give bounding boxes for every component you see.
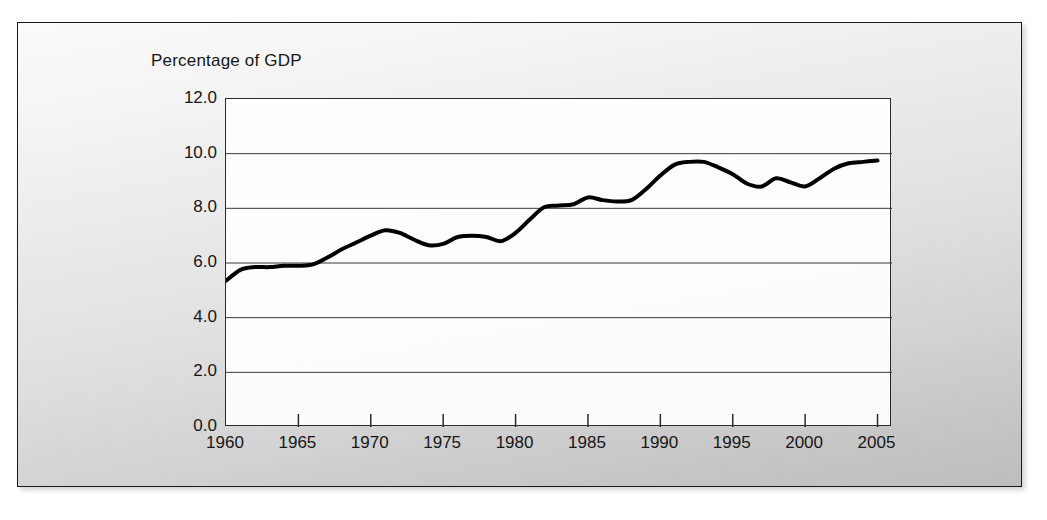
x-tick-label: 1990 — [623, 433, 695, 453]
x-tick-label: 2005 — [841, 433, 913, 453]
plot-area — [225, 98, 891, 426]
chart-svg — [226, 99, 892, 427]
figure-root: Percentage of GDP 12.010.08.06.04.02.00.… — [0, 0, 1047, 520]
x-tick-label: 2000 — [768, 433, 840, 453]
x-axis-tick-marks — [298, 414, 877, 427]
y-tick-label: 6.0 — [155, 252, 217, 272]
y-tick-label: 4.0 — [155, 307, 217, 327]
y-tick-label: 10.0 — [155, 143, 217, 163]
figure-panel: Percentage of GDP 12.010.08.06.04.02.00.… — [17, 22, 1022, 487]
y-tick-label: 8.0 — [155, 197, 217, 217]
y-axis-tick-labels: 12.010.08.06.04.02.00.0 — [151, 98, 217, 426]
y-tick-label: 2.0 — [155, 361, 217, 381]
y-tick-label: 12.0 — [155, 88, 217, 108]
x-tick-label: 1965 — [261, 433, 333, 453]
axis-title: Percentage of GDP — [151, 51, 302, 71]
x-tick-label: 1970 — [334, 433, 406, 453]
x-tick-label: 1960 — [189, 433, 261, 453]
x-tick-label: 1980 — [479, 433, 551, 453]
gridlines — [226, 154, 892, 373]
x-tick-label: 1995 — [696, 433, 768, 453]
x-tick-label: 1985 — [551, 433, 623, 453]
x-axis-tick-labels: 1960196519701975198019851990199520002005 — [225, 433, 891, 459]
x-tick-label: 1975 — [406, 433, 478, 453]
